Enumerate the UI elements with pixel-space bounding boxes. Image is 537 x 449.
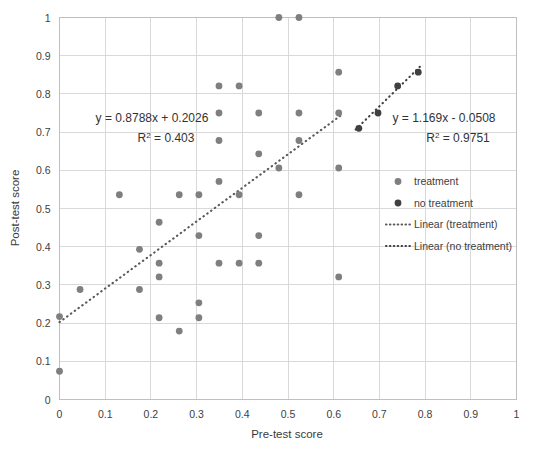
data-point-treatment <box>296 137 303 144</box>
treatment-equation-r2: R2 = 0.403 <box>138 131 195 145</box>
data-point-treatment <box>236 82 243 89</box>
data-point-treatment <box>275 165 282 172</box>
data-point-treatment <box>255 260 262 267</box>
data-point-treatment <box>335 273 342 280</box>
data-point-treatment <box>255 150 262 157</box>
y-tick-label: 0.9 <box>36 50 51 62</box>
legend-label-1: no treatment <box>414 197 473 209</box>
x-tick-label: 0.6 <box>326 408 341 420</box>
data-point-treatment <box>77 286 84 293</box>
data-point-treatment <box>156 260 163 267</box>
x-tick-label: 0.3 <box>189 408 204 420</box>
x-tick-label: 0.1 <box>98 408 113 420</box>
data-point-treatment <box>156 219 163 226</box>
y-tick-label: 0.1 <box>36 355 51 367</box>
y-tick-label: 0.4 <box>36 241 51 253</box>
y-tick-label: 0.6 <box>36 164 51 176</box>
data-point-no-treatment <box>415 69 422 76</box>
data-point-treatment <box>116 191 123 198</box>
treatment-equation-line: y = 0.8788x + 0.2026 <box>96 111 209 125</box>
y-tick-label: 1 <box>45 12 51 24</box>
y-tick-label: 0.2 <box>36 317 51 329</box>
data-point-treatment <box>275 14 282 21</box>
x-tick-label: 0.2 <box>144 408 159 420</box>
legend-label-3: Linear (no treatment) <box>414 240 512 252</box>
x-tick-label: 0.9 <box>463 408 478 420</box>
chart-canvas: 00.10.20.30.40.50.60.70.80.9100.10.20.30… <box>0 0 537 449</box>
x-axis-title: Pre-test score <box>251 428 323 440</box>
data-point-treatment <box>216 110 223 117</box>
data-point-treatment <box>335 69 342 76</box>
data-point-treatment <box>56 368 63 375</box>
no-treatment-equation-line: y = 1.169x - 0.0508 <box>392 111 495 125</box>
data-point-treatment <box>236 191 243 198</box>
data-point-treatment <box>296 110 303 117</box>
data-point-treatment <box>156 273 163 280</box>
x-tick-label: 0.4 <box>235 408 250 420</box>
data-point-treatment <box>255 110 262 117</box>
scatter-chart: 00.10.20.30.40.50.60.70.80.9100.10.20.30… <box>0 0 537 449</box>
data-point-treatment <box>156 314 163 321</box>
data-point-no-treatment <box>355 125 362 132</box>
data-point-treatment <box>216 137 223 144</box>
data-point-treatment <box>136 286 143 293</box>
data-point-no-treatment <box>375 110 382 117</box>
x-tick-label: 0.5 <box>281 408 296 420</box>
x-tick-label: 0.8 <box>418 408 433 420</box>
data-point-treatment <box>195 191 202 198</box>
data-point-treatment <box>296 14 303 21</box>
y-tick-label: 0.8 <box>36 88 51 100</box>
y-tick-label: 0.5 <box>36 203 51 215</box>
data-point-treatment <box>216 82 223 89</box>
data-point-treatment <box>56 313 63 320</box>
data-point-treatment <box>255 232 262 239</box>
data-point-treatment <box>216 178 223 185</box>
data-point-treatment <box>176 191 183 198</box>
legend-label-0: treatment <box>414 175 458 187</box>
data-point-treatment <box>216 260 223 267</box>
data-point-no-treatment <box>394 82 401 89</box>
data-point-treatment <box>296 191 303 198</box>
y-tick-label: 0.7 <box>36 126 51 138</box>
data-point-treatment <box>136 246 143 253</box>
legend-marker-0 <box>395 178 402 185</box>
data-point-treatment <box>195 299 202 306</box>
y-tick-label: 0.3 <box>36 279 51 291</box>
y-axis-title: Post-test score <box>9 170 21 247</box>
data-point-treatment <box>236 260 243 267</box>
x-tick-label: 0.7 <box>372 408 387 420</box>
data-point-treatment <box>195 314 202 321</box>
data-point-treatment <box>335 165 342 172</box>
y-tick-label: 0 <box>45 394 51 406</box>
x-tick-label: 0 <box>57 408 63 420</box>
x-tick-label: 1 <box>514 408 520 420</box>
data-point-treatment <box>335 110 342 117</box>
data-point-treatment <box>195 232 202 239</box>
legend-label-2: Linear (treatment) <box>414 218 497 230</box>
legend-marker-1 <box>395 200 402 207</box>
data-point-treatment <box>176 328 183 335</box>
